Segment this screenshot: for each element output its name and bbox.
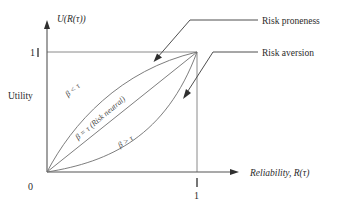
- x-tick-label-1: 1: [194, 190, 199, 201]
- origin-label: 0: [28, 181, 33, 192]
- x-axis-label: Reliability, R(τ): [249, 168, 309, 179]
- risk-utility-figure: U(R(τ)) Utility Reliability, R(τ) 0 1 1 …: [0, 0, 338, 210]
- leader-arrow-aversion-icon: [183, 89, 191, 99]
- curve-label-risk-aversion: β > τ: [115, 133, 135, 150]
- axes: [44, 20, 239, 175]
- callout-risk-proneness: Risk proneness: [262, 16, 320, 26]
- callout-risk-aversion: Risk aversion: [262, 48, 314, 58]
- leader-arrow-proneness-icon: [154, 54, 163, 63]
- x-axis-arrow-icon: [230, 169, 239, 175]
- y-tick-label-1: 1: [30, 47, 35, 58]
- tick-marks: [38, 48, 197, 187]
- curve-risk-neutral: [47, 52, 197, 172]
- y-axis-label: U(R(τ)): [57, 14, 86, 25]
- y-side-label: Utility: [8, 91, 33, 101]
- curves: [47, 52, 197, 172]
- y-axis-arrow-icon: [44, 20, 50, 29]
- curve-label-risk-proneness: β < τ: [63, 80, 83, 99]
- curve-label-risk-neutral: β = τ (Risk neutral): [73, 94, 128, 142]
- callout-leaders: [154, 20, 259, 99]
